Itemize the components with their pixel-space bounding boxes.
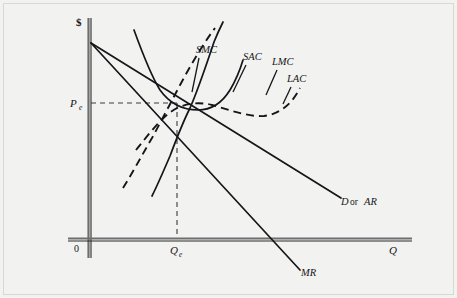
price-subscript: e [79, 103, 83, 112]
economics-diagram-canvas: $ P e 0 Q e Q SMC SAC LMC LAC D or AR MR [0, 0, 457, 298]
demand-label-d: D [340, 196, 349, 207]
demand-line [91, 43, 341, 198]
axis-group [68, 18, 412, 258]
quantity-subscript: e [179, 250, 183, 259]
figure-frame: $ P e 0 Q e Q SMC SAC LMC LAC D or AR MR [0, 0, 457, 298]
smc-label: SMC [196, 44, 218, 55]
demand-label-ar: AR [363, 196, 377, 207]
price-label-group: P e [69, 97, 83, 112]
price-label: P [69, 97, 77, 109]
quantity-label-group: Q e [170, 244, 183, 259]
lac-label: LAC [286, 73, 307, 84]
x-axis-label: Q [389, 244, 397, 256]
lac-leader-line [283, 87, 291, 104]
sac-label: SAC [243, 51, 263, 62]
demand-label-group: D or AR [340, 196, 377, 207]
origin-label: 0 [74, 243, 79, 254]
demand-label-or: or [350, 197, 359, 207]
quantity-label: Q [170, 244, 178, 256]
y-axis-label: $ [76, 16, 82, 28]
mr-label: MR [300, 267, 317, 278]
lmc-leader-line [266, 70, 277, 95]
lmc-label: LMC [271, 56, 295, 67]
